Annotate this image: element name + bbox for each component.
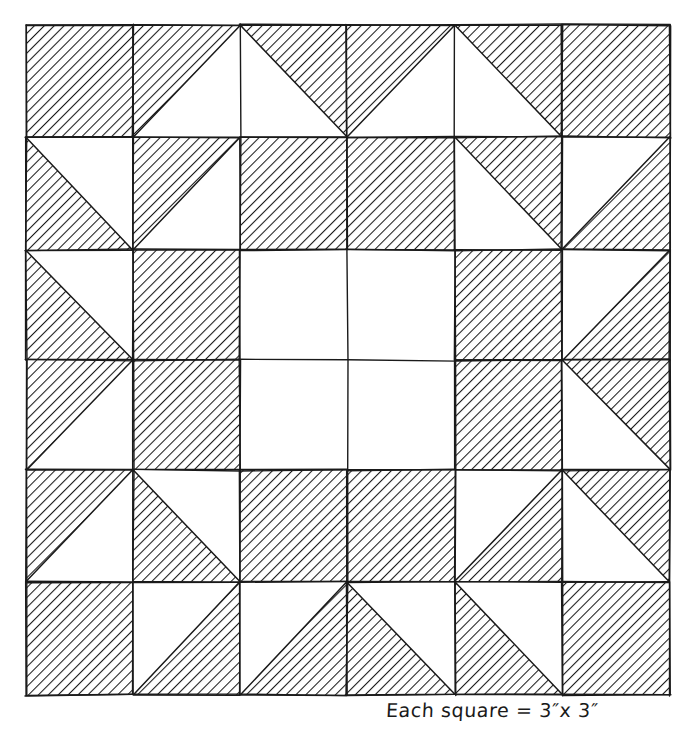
quilt-cell-r4c2-full	[133, 359, 241, 469]
quilt-cell-r2c3-full	[240, 137, 348, 251]
quilt-cell-r5c4-full	[347, 469, 456, 582]
quilt-cell-r6c6-full	[562, 582, 671, 696]
quilt-cell-r2c4-full	[347, 137, 454, 250]
quilt-cell-r6c1-full	[26, 581, 133, 695]
quilt-cell-r4c5-full	[455, 360, 562, 470]
quilt-drawing	[0, 0, 695, 730]
quilt-cell-r5c3-full	[239, 469, 347, 581]
quilt-block-diagram: Each square = 3″x 3″	[0, 0, 695, 730]
quilt-cell-r1c1-full	[26, 25, 133, 137]
quilt-cell-r3c5-full	[454, 250, 562, 360]
quilt-cell-r3c2-full	[133, 250, 240, 360]
quilt-cell-r1c6-full	[561, 25, 670, 138]
